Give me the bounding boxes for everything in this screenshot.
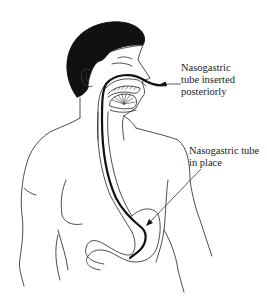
left-arm-crease: [24, 188, 36, 195]
label-line: Nasogastric tube: [189, 145, 259, 157]
right-side-line: [164, 230, 184, 292]
eye-line: [118, 57, 132, 59]
esophagus-right-wall: [108, 112, 132, 216]
stomach-inner: [86, 232, 135, 264]
tongue-striations: [112, 94, 135, 104]
left-side-line: [56, 235, 60, 280]
pharynx-front: [123, 116, 125, 140]
left-shoulder: [19, 118, 80, 286]
left-side-line-2: [58, 230, 68, 270]
left-chest-line: [61, 180, 82, 225]
label-line: tube inserted: [181, 74, 235, 86]
chin-neck: [124, 116, 136, 128]
label-line: in place: [189, 157, 259, 169]
cheek-line: [112, 63, 132, 66]
nasal-passage: [106, 79, 146, 88]
label-tube-inserted: Nasogastric tube inserted posteriorly: [181, 62, 235, 98]
right-chest-line: [156, 180, 168, 262]
label-line: Nasogastric: [181, 62, 235, 74]
label-line: posteriorly: [181, 86, 235, 98]
nasogastric-tube: [102, 75, 166, 258]
label-tube-in-place: Nasogastric tube in place: [189, 145, 259, 169]
palate: [108, 86, 140, 97]
palate-hatching: [114, 86, 136, 91]
